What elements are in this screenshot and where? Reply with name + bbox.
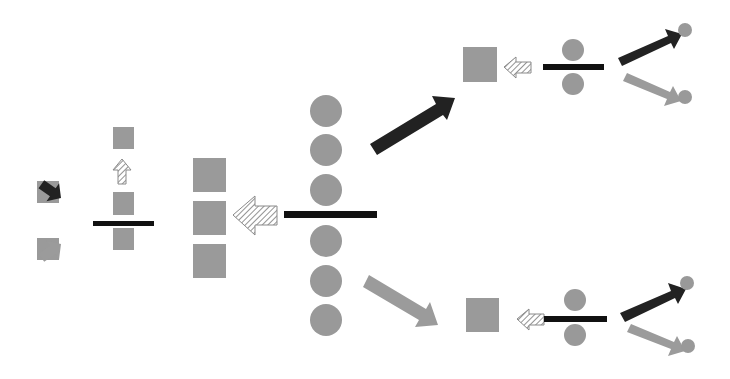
top-right-small-circle-upper bbox=[678, 23, 692, 37]
center-circle-1 bbox=[310, 95, 342, 127]
center-square-3 bbox=[193, 244, 226, 278]
center-circle-3 bbox=[310, 174, 342, 206]
diagram-svg bbox=[0, 0, 730, 379]
center-circle-5 bbox=[310, 265, 342, 297]
center-square-2 bbox=[193, 201, 226, 235]
top-right-dark-arrow-icon bbox=[618, 29, 682, 66]
top-right-square bbox=[463, 47, 497, 82]
top-right-circle-upper bbox=[562, 39, 584, 61]
center-circle-6 bbox=[310, 304, 342, 336]
center-circle-2 bbox=[310, 134, 342, 166]
bottom-right-small-circle-lower bbox=[681, 339, 695, 353]
center-cluster bbox=[193, 95, 455, 336]
top-right-circle-lower bbox=[562, 73, 584, 95]
dark-arrow-ne-icon bbox=[370, 96, 455, 155]
hatch-arrow-left-icon bbox=[233, 196, 277, 235]
bottom-right-gray-arrow-icon bbox=[627, 324, 685, 356]
top-right-cluster bbox=[463, 23, 692, 106]
bottom-right-hatch-arrow-icon bbox=[517, 309, 544, 330]
left-square-mid bbox=[113, 192, 134, 215]
left-square-top bbox=[113, 127, 134, 149]
left-cluster bbox=[35, 127, 154, 267]
left-square-bottom bbox=[113, 228, 134, 250]
bottom-right-small-circle-upper bbox=[680, 276, 694, 290]
top-right-hatch-arrow-icon bbox=[504, 57, 531, 78]
bottom-right-dark-arrow-icon bbox=[620, 283, 686, 322]
bottom-right-circle-lower bbox=[564, 324, 586, 346]
center-divider-bar bbox=[284, 211, 377, 218]
left-divider-bar bbox=[93, 221, 154, 226]
center-square-1 bbox=[193, 158, 226, 192]
gray-arrow-se-icon bbox=[363, 275, 438, 327]
top-right-gray-arrow-icon bbox=[623, 73, 681, 106]
top-right-divider-bar bbox=[543, 64, 604, 70]
bottom-right-divider-bar bbox=[544, 316, 607, 322]
bottom-right-circle-upper bbox=[564, 289, 586, 311]
hatch-arrow-up-icon bbox=[113, 159, 131, 184]
center-circle-4 bbox=[310, 225, 342, 257]
diagram-canvas bbox=[0, 0, 730, 379]
top-right-small-circle-lower bbox=[678, 90, 692, 104]
bottom-right-square bbox=[466, 298, 499, 332]
bottom-right-cluster bbox=[466, 276, 695, 356]
